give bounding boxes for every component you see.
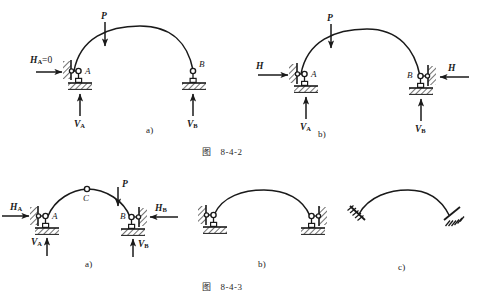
fig-8-4-2-panel-a (36, 22, 206, 116)
reaction-label-vb-fig3a: VB (138, 240, 149, 250)
support-right (301, 206, 327, 234)
reaction-subscript: A (17, 205, 22, 212)
pin-hinge (295, 72, 299, 76)
fig-8-4-3-panel-b (198, 190, 327, 234)
pin-hinge (418, 73, 423, 78)
figure-caption-8-4-2: 图8-4-2 (202, 148, 243, 157)
node-label-b-fig2a: B (199, 60, 205, 69)
panel-label-fig3a: a) (85, 260, 93, 269)
panel-label-fig3c: c) (398, 263, 406, 272)
node-label-b-fig3a: B (120, 212, 126, 221)
pin-hinge (425, 74, 429, 78)
node-label-a-fig2b: A (311, 70, 317, 79)
reaction-label-hb-fig3a: HB (155, 204, 167, 214)
figure-caption-8-4-3: 图8-4-3 (202, 283, 243, 292)
panel-label-fig3b: b) (258, 260, 266, 269)
node-label-a-fig2a: A (85, 67, 91, 76)
pin-hinge (309, 213, 314, 218)
panel-label-fig2a: a) (146, 126, 154, 135)
fig-8-4-3-panel-a (2, 186, 178, 257)
pin-hinge (316, 214, 320, 218)
fixed-support-right (444, 207, 464, 226)
reaction-label-ha-fig2a: HA=0 (30, 56, 52, 66)
pin-hinge (190, 68, 195, 73)
pin-hinge (36, 214, 40, 218)
load-label-p-fig3a: P (122, 180, 128, 190)
reaction-label-va-fig2a: VA (74, 120, 85, 130)
diagram-page: P P HA=0 A B VA VB a) P H H A B VA VB b)… (0, 0, 477, 299)
pin-hinge (76, 68, 81, 73)
caption-prefix: 图 (202, 282, 212, 292)
ground-hatch (203, 227, 227, 233)
pin-hinge (302, 71, 307, 76)
reaction-subscript: A (306, 125, 311, 132)
reaction-label-vb-fig2a: VB (187, 120, 198, 130)
load-label-p-fig2b: P (327, 14, 333, 24)
arch-rib (214, 190, 310, 216)
node-label-c-fig3a: C (83, 194, 89, 203)
pin-shoe (309, 223, 315, 227)
arch-rib (359, 190, 449, 215)
load-label-p-fig2a: P (101, 12, 107, 22)
ground-hatch (35, 228, 59, 234)
reaction-suffix: =0 (42, 55, 52, 65)
panel-label-fig2b: b) (318, 130, 326, 139)
arch-rib (301, 29, 420, 76)
pin-hinge (211, 212, 216, 217)
pin-shoe (190, 78, 196, 82)
reaction-label-va-fig2b: VA (300, 123, 311, 133)
caption-number: 8-4-2 (212, 147, 243, 157)
reaction-subscript: A (37, 240, 42, 247)
pin-shoe (418, 83, 424, 87)
ground-hatch (409, 88, 433, 94)
pin-shoe (76, 78, 82, 82)
pin-hinge (129, 214, 134, 219)
pin-hinge (136, 215, 140, 219)
reaction-subscript: B (144, 242, 148, 249)
pin-shoe (129, 224, 135, 228)
pin-shoe (211, 222, 217, 226)
reaction-label-h-right-fig2b: H (448, 64, 455, 74)
fig-8-4-2-panel-b (258, 24, 469, 121)
support-b (409, 65, 436, 94)
ground-hatch (121, 229, 145, 235)
reaction-label-va-fig3a: VA (31, 238, 42, 248)
pin-hinge (69, 69, 73, 73)
support-b (182, 68, 206, 89)
ground-hatch (294, 86, 318, 92)
reaction-label-h-left-fig2b: H (256, 62, 263, 72)
fixed-edge (444, 207, 460, 220)
reaction-subscript: B (421, 127, 425, 134)
reaction-subscript: A (80, 122, 85, 129)
support-left (198, 205, 227, 233)
pin-hinge (204, 213, 208, 217)
fig-8-4-3-panel-c (348, 190, 465, 226)
ground-hatch (68, 83, 92, 89)
caption-number: 8-4-3 (212, 282, 243, 292)
arch-rib (74, 26, 193, 71)
node-label-b-fig2b: B (407, 71, 413, 80)
pin-hinge (43, 213, 48, 218)
reaction-subscript: B (162, 206, 166, 213)
crown-hinge-c (84, 186, 89, 191)
ground-hatch (301, 228, 325, 234)
pin-shoe (43, 223, 49, 227)
node-label-a-fig3a: A (52, 212, 58, 221)
caption-prefix: 图 (202, 147, 212, 157)
reaction-subscript: B (193, 122, 197, 129)
reaction-label-ha-fig3a: HA (10, 203, 22, 213)
pin-shoe (302, 81, 308, 85)
reaction-label-vb-fig2b: VB (415, 125, 426, 135)
ground-hatch (182, 83, 206, 89)
